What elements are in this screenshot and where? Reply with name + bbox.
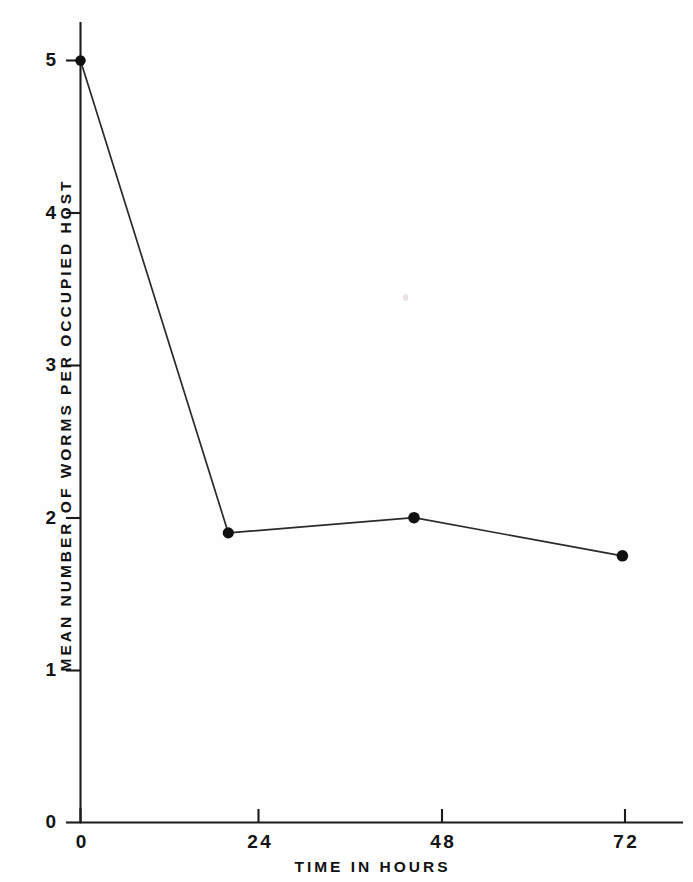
data-point-72h (617, 550, 629, 562)
x-tick-label-72: 72 (595, 832, 655, 851)
y-tick-label-0: 0 (22, 812, 56, 831)
x-tick-label-48: 48 (412, 832, 472, 851)
x-tick-label-24: 24 (229, 832, 289, 851)
x-axis-ticks (81, 808, 626, 823)
y-tick-label-1: 1 (22, 660, 56, 679)
y-tick-label-3: 3 (22, 355, 56, 374)
y-tick-label-5: 5 (22, 50, 56, 69)
y-axis-title: MEAN NUMBER OF WORMS PER OCCUPIED HOST (57, 145, 75, 705)
y-tick-label-4: 4 (22, 203, 56, 222)
data-point-0h (75, 55, 85, 65)
data-line-series-1 (81, 61, 623, 556)
data-point-20h (223, 527, 234, 538)
figure-canvas: 5 4 3 2 1 0 0 24 48 72 MEAN NUMBER OF WO… (0, 0, 693, 882)
scan-artifact-speck (403, 294, 408, 301)
data-point-44h (408, 512, 420, 524)
chart-plot-area (0, 0, 693, 882)
x-tick-label-0: 0 (51, 832, 111, 851)
y-tick-label-2: 2 (22, 508, 56, 527)
x-axis-title: TIME IN HOURS (0, 858, 693, 876)
